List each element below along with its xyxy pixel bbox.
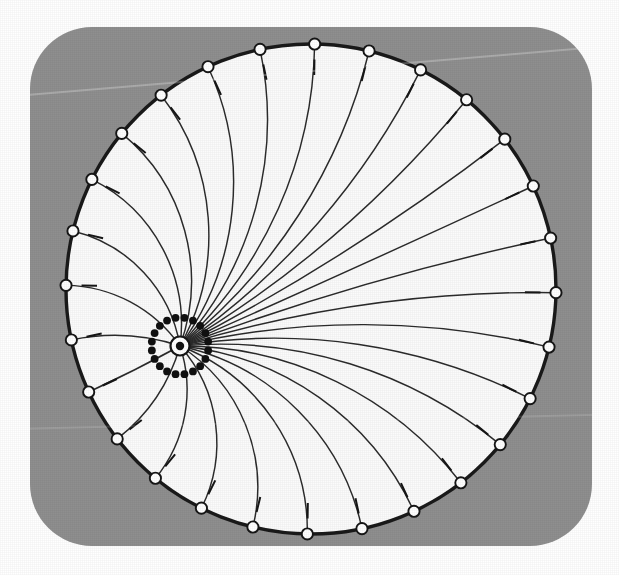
figure-root	[0, 0, 619, 575]
ring-dot	[181, 370, 189, 378]
boundary-endpoint-marker	[528, 180, 539, 191]
hub-center-dot	[176, 342, 184, 350]
boundary-endpoint-marker	[150, 473, 161, 484]
ring-dot	[156, 322, 164, 330]
boundary-endpoint-marker	[67, 225, 78, 236]
boundary-endpoint-marker	[550, 287, 561, 298]
boundary-endpoint-marker	[112, 433, 123, 444]
ring-dot	[189, 367, 197, 375]
ring-dot	[172, 314, 180, 322]
diagram-stage	[0, 0, 619, 575]
boundary-endpoint-marker	[66, 334, 77, 345]
boundary-endpoint-marker	[116, 128, 127, 139]
boundary-endpoint-marker	[543, 341, 554, 352]
boundary-endpoint-marker	[196, 503, 207, 514]
boundary-endpoint-marker	[86, 174, 97, 185]
ring-dot	[189, 317, 197, 325]
ring-dot	[204, 347, 212, 355]
ring-dot	[148, 338, 156, 346]
disk-layer	[66, 44, 556, 534]
boundary-endpoint-marker	[415, 64, 426, 75]
boundary-endpoint-marker	[309, 38, 320, 49]
boundary-endpoint-marker	[156, 90, 167, 101]
poincare-disk-svg	[0, 0, 619, 575]
boundary-endpoint-marker	[455, 477, 466, 488]
hub-marker-layer	[171, 337, 190, 356]
ring-dot	[201, 329, 209, 337]
ring-dot	[196, 322, 204, 330]
ring-dot	[172, 370, 180, 378]
ring-dot	[204, 338, 212, 346]
ring-dot	[201, 355, 209, 363]
ring-dot	[148, 347, 156, 355]
boundary-endpoint-marker	[60, 280, 71, 291]
boundary-endpoint-marker	[247, 521, 258, 532]
boundary-endpoint-marker	[495, 439, 506, 450]
boundary-endpoint-marker	[302, 528, 313, 539]
boundary-endpoint-marker	[363, 45, 374, 56]
boundary-endpoint-marker	[525, 393, 536, 404]
boundary-endpoint-marker	[202, 61, 213, 72]
ring-dot	[196, 362, 204, 370]
ring-dot	[156, 362, 164, 370]
boundary-endpoint-marker	[356, 523, 367, 534]
ring-dot	[163, 317, 171, 325]
ring-dot	[151, 355, 159, 363]
boundary-endpoint-marker	[254, 44, 265, 55]
boundary-endpoint-marker	[408, 506, 419, 517]
ring-dot	[163, 367, 171, 375]
boundary-endpoint-marker	[83, 386, 94, 397]
boundary-endpoint-marker	[499, 134, 510, 145]
boundary-circle	[66, 44, 556, 534]
ring-dot	[151, 329, 159, 337]
ring-dot	[181, 314, 189, 322]
boundary-endpoint-marker	[461, 94, 472, 105]
boundary-endpoint-marker	[545, 232, 556, 243]
